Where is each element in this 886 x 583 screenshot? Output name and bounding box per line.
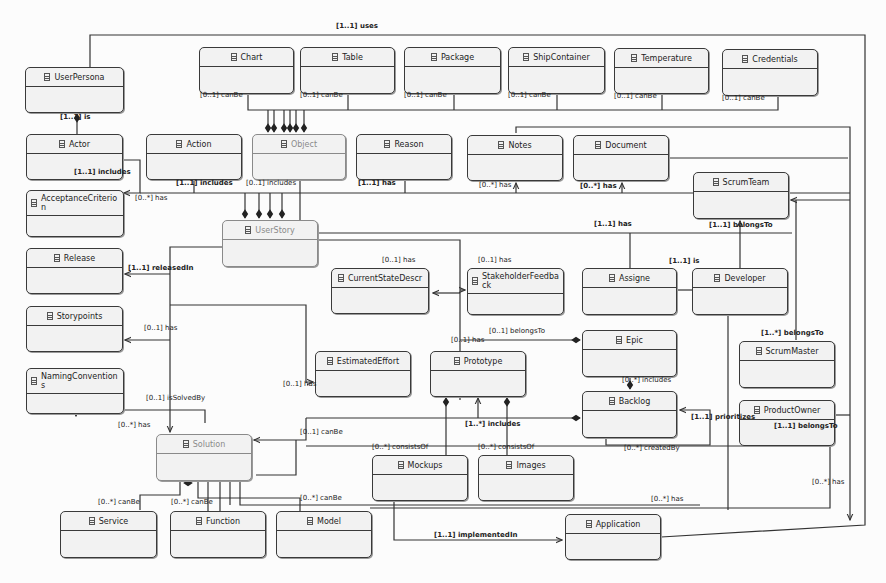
- class-icon: [498, 141, 504, 149]
- class-header: Developer: [693, 269, 787, 288]
- class-notes[interactable]: Notes: [467, 135, 563, 181]
- class-name: Credentials: [752, 55, 797, 64]
- class-action[interactable]: Action: [146, 134, 242, 180]
- class-userpersona[interactable]: UserPersona: [25, 67, 124, 113]
- class-icon: [454, 357, 460, 365]
- class-header: ShipContainer: [509, 48, 604, 67]
- class-header: Table: [301, 48, 394, 67]
- association-label: [0..1] isSolvedBy: [146, 394, 205, 402]
- association-label: [0..1] has: [478, 256, 511, 264]
- association-label: [0..1] has: [382, 256, 415, 264]
- class-shipcontainer[interactable]: ShipContainer: [508, 47, 605, 94]
- class-icon: [523, 53, 529, 61]
- class-credentials[interactable]: Credentials: [722, 49, 818, 96]
- class-icon: [59, 140, 65, 148]
- class-reason[interactable]: Reason: [356, 134, 452, 180]
- class-name: Actor: [69, 140, 90, 149]
- class-header: UserStory: [223, 221, 317, 240]
- class-icon: [742, 55, 748, 63]
- class-icon: [609, 274, 615, 282]
- association-label: [0..*] consistsOf: [372, 443, 428, 451]
- class-developer[interactable]: Developer: [692, 268, 788, 315]
- class-name: UserPersona: [54, 73, 104, 82]
- association-label: [0..1] includes: [246, 179, 296, 187]
- class-icon: [586, 520, 592, 528]
- association-label: [0..*] has: [812, 478, 844, 486]
- class-name: Chart: [241, 53, 263, 62]
- class-header: EstimatedEffort: [316, 352, 410, 371]
- class-acceptancecriterion[interactable]: AcceptanceCriterion: [26, 190, 124, 237]
- class-scrummaster[interactable]: ScrumMaster: [739, 341, 835, 388]
- class-name: Object: [291, 140, 317, 149]
- class-function[interactable]: Function: [170, 511, 266, 558]
- association-label: [0..*] canBe: [300, 494, 342, 502]
- class-stakeholderfeedback[interactable]: StakeholderFeedback: [467, 268, 564, 315]
- class-header: Storypoints: [27, 307, 122, 326]
- association-label: [1..1] includes: [74, 168, 131, 176]
- class-name: Notes: [508, 141, 531, 150]
- class-icon: [506, 461, 512, 469]
- association-label: [0..1] belongsTo: [489, 327, 545, 335]
- association-label: [0..1] has: [144, 324, 177, 332]
- class-userstory[interactable]: UserStory: [222, 220, 318, 267]
- class-name: AcceptanceCriterion: [41, 194, 119, 212]
- class-header: Document: [574, 136, 668, 155]
- class-icon: [609, 397, 615, 405]
- class-name: Model: [317, 517, 341, 526]
- association-label: [1..*] belongsTo: [761, 329, 823, 337]
- class-name: Backlog: [619, 397, 651, 406]
- class-name: Temperature: [641, 54, 692, 63]
- association-label: [1..1] belongsTo: [774, 422, 838, 430]
- class-name: Assigne: [619, 274, 650, 283]
- association-label: [1..1] belongsTo: [709, 221, 773, 229]
- association-label: [0..*] createdBy: [624, 444, 680, 452]
- association-label: [1..1] is: [60, 113, 90, 121]
- association-label: [1..1] has: [358, 179, 396, 187]
- class-icon: [231, 53, 237, 61]
- class-icon: [196, 517, 202, 525]
- class-solution[interactable]: Solution: [156, 434, 252, 481]
- association-label: [1..1] uses: [336, 22, 378, 30]
- class-images[interactable]: Images: [478, 455, 574, 501]
- association-label: [1..1] includes: [176, 179, 233, 187]
- class-currentstatedescr[interactable]: CurrentStateDescr: [331, 268, 429, 314]
- association-label: [0..1] canBe: [300, 428, 343, 436]
- class-document[interactable]: Document: [573, 135, 669, 181]
- class-name: ProductOwner: [764, 406, 821, 415]
- class-mockups[interactable]: Mockups: [372, 455, 468, 501]
- class-name: Solution: [193, 440, 226, 449]
- class-table[interactable]: Table: [300, 47, 395, 94]
- class-model[interactable]: Model: [276, 511, 372, 558]
- class-assigne[interactable]: Assigne: [582, 268, 677, 315]
- association-label: [0..*] canBe: [98, 498, 140, 506]
- class-scrumteam[interactable]: ScrumTeam: [693, 172, 789, 219]
- class-name: Package: [441, 53, 474, 62]
- class-icon: [47, 312, 53, 320]
- class-icon: [431, 53, 437, 61]
- association-label: [0..1] canBe: [508, 91, 551, 99]
- class-header: Release: [27, 249, 122, 268]
- class-chart[interactable]: Chart: [199, 47, 294, 94]
- class-namingconventions[interactable]: NamingConventions: [26, 368, 124, 414]
- class-header: Service: [61, 512, 156, 531]
- class-icon: [307, 517, 313, 525]
- class-release[interactable]: Release: [26, 248, 123, 294]
- class-name: Images: [516, 461, 545, 470]
- class-name: Developer: [724, 274, 765, 283]
- class-temperature[interactable]: Temperature: [614, 48, 709, 94]
- class-epic[interactable]: Epic: [582, 330, 677, 377]
- class-package[interactable]: Package: [404, 47, 501, 94]
- class-header: UserPersona: [26, 68, 123, 87]
- class-header: Chart: [200, 48, 293, 67]
- class-backlog[interactable]: Backlog: [582, 391, 677, 438]
- class-object[interactable]: Object: [252, 134, 346, 180]
- class-icon: [756, 347, 762, 355]
- class-application[interactable]: Application: [565, 514, 661, 560]
- class-storypoints[interactable]: Storypoints: [26, 306, 123, 352]
- association-label: [0..1] canBe: [200, 91, 243, 99]
- class-name: StakeholderFeedback: [482, 272, 559, 290]
- class-prototype[interactable]: Prototype: [430, 351, 526, 397]
- class-service[interactable]: Service: [60, 511, 157, 558]
- class-estimatedeffort[interactable]: EstimatedEffort: [315, 351, 411, 397]
- association-label: [0..1] canBe: [300, 91, 343, 99]
